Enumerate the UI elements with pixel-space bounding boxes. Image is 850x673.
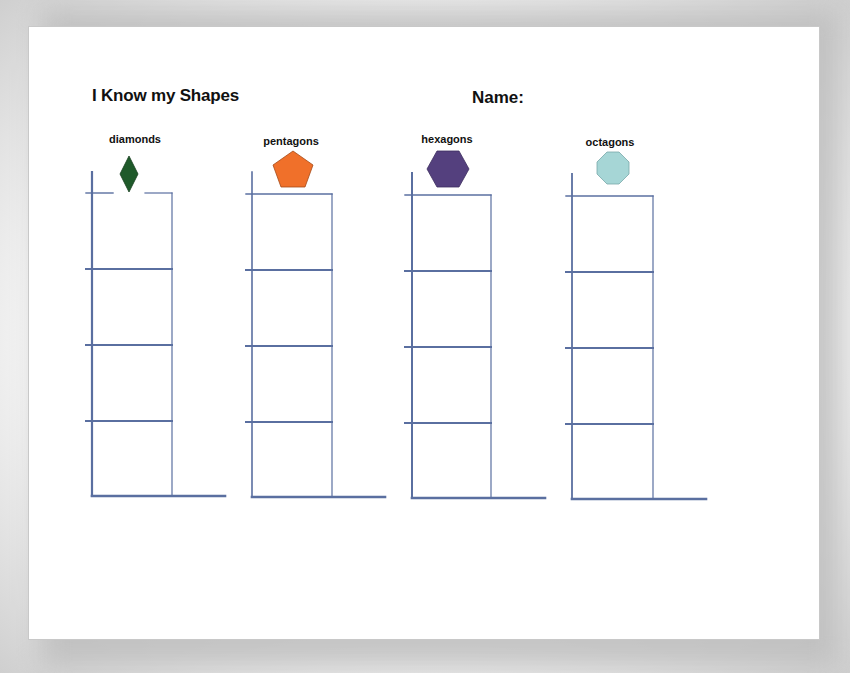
column-octagons-grid [566,174,706,499]
column-diamonds-grid [86,172,225,496]
column-pentagons-grid [246,172,385,497]
column-hexagons-grid [405,173,545,498]
tally-grid [0,0,850,673]
